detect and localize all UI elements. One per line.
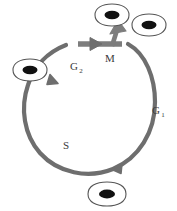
daughter-cell-1-nucleus [105,11,120,19]
phase-label-m: M [105,52,115,64]
parent-cell-nucleus [99,190,115,199]
parent-cell [88,182,126,206]
daughter-cell-1 [95,4,129,26]
daughter-cell-2-nucleus [142,21,157,29]
cell-cycle-diagram: M G 1 G 2 S [0,0,177,211]
interphase-cell-nucleus [23,66,38,74]
phase-label-g1-text: G [152,104,160,116]
phase-label-m-text: M [105,52,115,64]
phase-label-s: S [63,139,69,151]
phase-label-g2-subscript: 2 [79,67,83,75]
cell-cycle-canvas: M G 1 G 2 S [0,0,177,211]
daughter-cell-2 [132,14,166,36]
phase-label-g1-subscript: 1 [161,111,165,119]
phase-label-g2-text: G [70,60,78,72]
interphase-cell [13,59,47,81]
phase-label-s-text: S [63,139,69,151]
